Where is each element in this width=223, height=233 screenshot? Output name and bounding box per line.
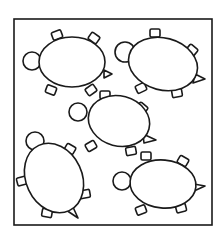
turtle-foot — [141, 152, 151, 160]
turtle-head — [113, 172, 131, 190]
turtle-4 — [13, 132, 94, 222]
turtle-5 — [113, 152, 205, 215]
turtle-shell — [39, 37, 105, 87]
turtle-head — [69, 103, 87, 121]
turtles-drawing — [0, 0, 223, 233]
turtle-foot — [45, 85, 57, 96]
turtle-tail — [104, 70, 112, 78]
turtle-foot — [150, 29, 160, 37]
turtle-foot — [85, 84, 98, 96]
turtle-foot — [135, 205, 147, 216]
turtle-1 — [23, 30, 112, 97]
turtles-group — [13, 29, 205, 222]
turtle-foot — [85, 140, 98, 152]
turtle-shell — [128, 157, 198, 211]
turtle-2 — [115, 29, 205, 98]
turtle-shell — [13, 134, 94, 223]
turtle-foot — [125, 146, 136, 156]
turtle-3 — [69, 89, 156, 156]
